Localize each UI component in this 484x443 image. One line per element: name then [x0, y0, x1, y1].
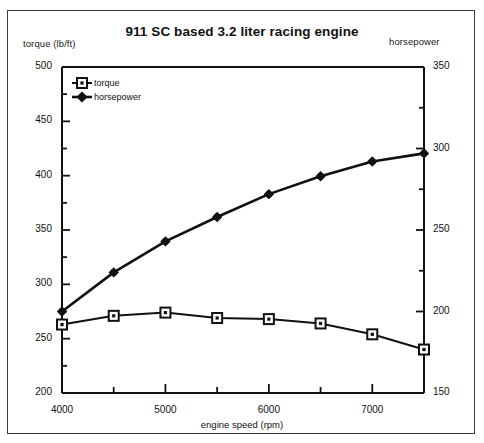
x-tick-label: 6000: [239, 404, 299, 415]
data-point-torque: [419, 345, 429, 355]
legend-marker-torque: [72, 78, 92, 88]
x-tick-label: 7000: [342, 404, 402, 415]
y-tick-label-left: 450: [18, 114, 52, 125]
x-tick-label: 5000: [135, 404, 195, 415]
data-point-horsepower: [419, 148, 429, 158]
y-tick-label-right: 150: [433, 386, 473, 397]
legend-markers-group: [72, 78, 92, 103]
legend-label-torque: torque: [94, 78, 120, 88]
data-point-horsepower: [212, 212, 222, 222]
y-tick-label-left: 300: [18, 277, 52, 288]
y-tick-label-left: 200: [18, 386, 52, 397]
data-point-torque: [160, 308, 170, 318]
y-tick-label-right: 200: [433, 305, 473, 316]
series-line-horsepower: [62, 153, 424, 311]
x-tick-label: 4000: [32, 404, 92, 415]
chart-plot: [0, 0, 484, 443]
y-tick-label-right: 300: [433, 142, 473, 153]
y-tick-label-left: 350: [18, 223, 52, 234]
tick-marks-group: [62, 94, 424, 393]
axes-group: [62, 67, 424, 393]
data-point-horsepower: [315, 171, 325, 181]
data-point-torque: [316, 318, 326, 328]
legend-label-horsepower: horsepower: [94, 92, 141, 102]
data-point-torque: [57, 320, 67, 330]
y-tick-label-left: 250: [18, 332, 52, 343]
y-tick-label-right: 350: [433, 60, 473, 71]
data-point-horsepower: [264, 189, 274, 199]
data-point-torque: [264, 314, 274, 324]
data-series-group: [57, 148, 429, 354]
y-tick-label-left: 500: [18, 60, 52, 71]
data-point-torque: [212, 313, 222, 323]
data-point-torque: [109, 311, 119, 321]
data-point-horsepower: [367, 156, 377, 166]
y-tick-label-left: 400: [18, 169, 52, 180]
legend-marker-horsepower: [72, 91, 92, 102]
data-point-torque: [367, 329, 377, 339]
y-tick-label-right: 250: [433, 223, 473, 234]
